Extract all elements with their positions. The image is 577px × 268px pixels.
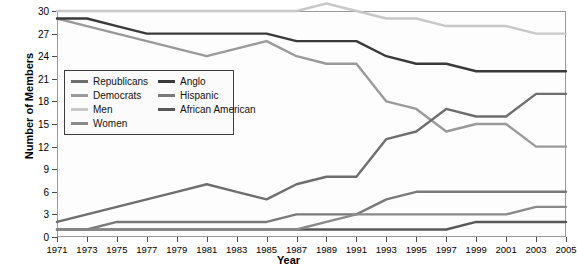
legend-item-hispanic[interactable]: Hispanic	[158, 89, 256, 102]
legend-swatch-icon	[158, 108, 175, 111]
legend-label: Hispanic	[180, 89, 218, 102]
legend-swatch-icon	[158, 94, 175, 97]
legend-label: Women	[93, 117, 127, 130]
legend-swatch-icon	[158, 80, 175, 83]
legend-column-left: RepublicansDemocratsMenWomen	[71, 75, 148, 130]
line-chart: Number of Members Year 03691215182124273…	[0, 0, 577, 268]
series-line-women	[57, 207, 566, 230]
legend-swatch-icon	[71, 108, 88, 111]
legend-label: African American	[180, 103, 256, 116]
legend-label: Men	[93, 103, 112, 116]
legend-swatch-icon	[71, 94, 88, 97]
legend-label: Democrats	[93, 89, 141, 102]
legend-item-democrats[interactable]: Democrats	[71, 89, 148, 102]
legend-label: Republicans	[93, 75, 148, 88]
legend-item-african-american[interactable]: African American	[158, 103, 256, 116]
legend-item-men[interactable]: Men	[71, 103, 148, 116]
legend-swatch-icon	[71, 80, 88, 83]
series-line-hispanic	[57, 192, 566, 230]
legend-swatch-icon	[71, 122, 88, 125]
legend-item-women[interactable]: Women	[71, 117, 148, 130]
legend-item-anglo[interactable]: Anglo	[158, 75, 256, 88]
chart-legend: RepublicansDemocratsMenWomen AngloHispan…	[64, 70, 234, 135]
legend-label: Anglo	[180, 75, 206, 88]
legend-column-right: AngloHispanicAfrican American	[158, 75, 256, 130]
legend-item-republicans[interactable]: Republicans	[71, 75, 148, 88]
